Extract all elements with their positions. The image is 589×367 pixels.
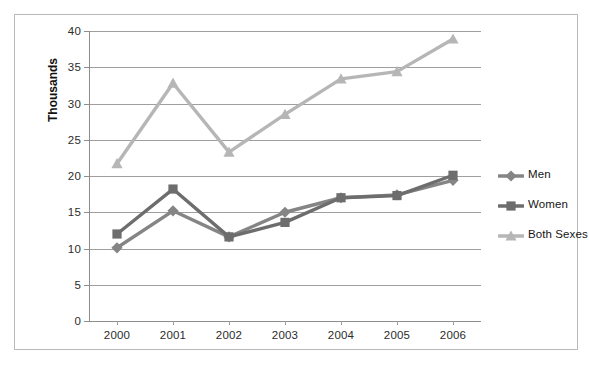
x-axis-label: 2005: [384, 329, 410, 341]
legend-swatch-diamond-icon: [498, 168, 524, 180]
data-point-marker: [280, 218, 289, 227]
legend-label: Both Sexes: [528, 228, 588, 240]
chart-legend: MenWomenBoth Sexes: [498, 167, 589, 241]
y-axis-title-label: Thousands: [46, 58, 60, 122]
data-point-marker: [448, 171, 457, 180]
legend-swatch-square-icon: [498, 198, 524, 210]
x-axis-label: 2001: [160, 329, 186, 341]
series-line: [117, 175, 453, 237]
x-axis-label: 2004: [328, 329, 354, 341]
x-axis-label: 2003: [272, 329, 298, 341]
legend-label: Men: [528, 168, 551, 180]
y-axis-label: 0: [74, 315, 81, 327]
plot-area: 0510152025303540 20002001200220032004200…: [89, 31, 481, 321]
y-axis-label: 5: [74, 279, 81, 291]
x-tick-2003: [285, 321, 286, 325]
x-tick-2002: [229, 321, 230, 325]
series-both-sexes: [111, 33, 458, 168]
legend-marker: [506, 201, 515, 210]
data-point-marker: [336, 193, 345, 202]
chart-frame: Thousands 0510152025303540 2000200120022…: [14, 14, 578, 350]
x-axis-label: 2000: [104, 329, 130, 341]
y-tick-0: [84, 321, 89, 322]
y-axis-label: 20: [68, 170, 81, 182]
y-axis-label: 30: [68, 98, 81, 110]
data-point-marker: [167, 78, 178, 88]
legend-label: Women: [528, 198, 568, 210]
series-line: [117, 39, 453, 164]
legend-marker: [505, 170, 516, 181]
x-axis-label: 2006: [440, 329, 466, 341]
x-tick-2005: [397, 321, 398, 325]
y-axis-label: 10: [68, 243, 81, 255]
x-tick-2000: [117, 321, 118, 325]
x-axis-label: 2002: [216, 329, 242, 341]
data-point-marker: [392, 191, 401, 200]
data-point-marker: [112, 229, 121, 238]
legend-item-women[interactable]: Women: [498, 197, 589, 211]
series-lines: [89, 31, 481, 321]
legend-swatch-triangle-icon: [498, 228, 524, 240]
y-axis-label: 25: [68, 134, 81, 146]
data-point-marker: [224, 232, 233, 241]
x-tick-2006: [453, 321, 454, 325]
series-men: [111, 175, 458, 254]
y-axis-title: Thousands: [43, 31, 63, 321]
x-tick-2001: [173, 321, 174, 325]
y-axis-label: 40: [68, 25, 81, 37]
series-women: [112, 171, 457, 242]
legend-item-men[interactable]: Men: [498, 167, 589, 181]
data-point-marker: [447, 33, 458, 43]
data-point-marker: [168, 184, 177, 193]
y-axis-label: 35: [68, 61, 81, 73]
data-point-marker: [279, 207, 290, 218]
legend-item-both-sexes[interactable]: Both Sexes: [498, 227, 589, 241]
y-axis-label: 15: [68, 206, 81, 218]
x-tick-2004: [341, 321, 342, 325]
